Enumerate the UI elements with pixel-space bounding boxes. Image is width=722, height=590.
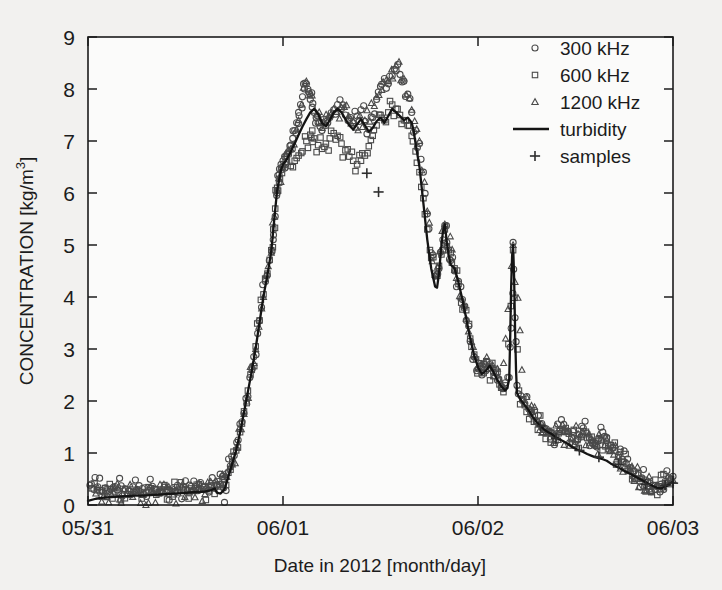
y-axis-title-main: CONCENTRATION [kg/m <box>16 169 37 385</box>
y-tick-label-4: 4 <box>63 286 75 309</box>
y-tick-label-8: 8 <box>63 78 75 101</box>
svg-text:CONCENTRATION [kg/m3]: CONCENTRATION [kg/m3] <box>13 157 37 386</box>
y-tick-label-2: 2 <box>63 390 75 413</box>
x-axis-title: Date in 2012 [month/day] <box>274 555 486 576</box>
x-tick-label-06-03: 06/03 <box>647 516 700 539</box>
x-tick-label-06-01: 06/01 <box>257 516 310 539</box>
y-tick-label-6: 6 <box>63 182 75 205</box>
y-tick-label-7: 7 <box>63 130 75 153</box>
legend-label-1200-khz: 1200 kHz <box>560 92 640 113</box>
y-axis-title-tail: ] <box>16 157 37 162</box>
y-tick-label-9: 9 <box>63 26 75 49</box>
y-axis-title-superscript: 3 <box>13 162 28 169</box>
y-tick-label-0: 0 <box>63 494 75 517</box>
legend-label-turbidity: turbidity <box>560 119 627 140</box>
y-tick-label-1: 1 <box>63 442 75 465</box>
legend-label-600-khz: 600 kHz <box>560 65 630 86</box>
concentration-timeseries-chart: 012345678905/3106/0106/0206/03 Date in 2… <box>0 0 722 590</box>
legend-label-300-khz: 300 kHz <box>560 38 630 59</box>
y-tick-label-5: 5 <box>63 234 75 257</box>
x-tick-label-05-31: 05/31 <box>62 516 115 539</box>
x-tick-label-06-02: 06/02 <box>452 516 505 539</box>
figure-container: 012345678905/3106/0106/0206/03 Date in 2… <box>0 0 722 590</box>
legend-label-samples: samples <box>560 146 631 167</box>
y-axis-title: CONCENTRATION [kg/m3] <box>13 157 37 386</box>
y-tick-label-3: 3 <box>63 338 75 361</box>
